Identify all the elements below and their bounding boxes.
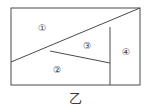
region-label-4: ④ — [122, 48, 130, 57]
region-label-1: ① — [38, 24, 46, 33]
diagonal-line — [11, 8, 140, 62]
branch-line — [50, 51, 110, 63]
geometry-figure: ① ② ③ ④ 乙 — [0, 0, 151, 112]
region-label-3: ③ — [83, 42, 91, 51]
figure-caption: 乙 — [69, 92, 82, 105]
region-label-2: ② — [53, 66, 61, 75]
outer-rectangle — [11, 8, 140, 85]
